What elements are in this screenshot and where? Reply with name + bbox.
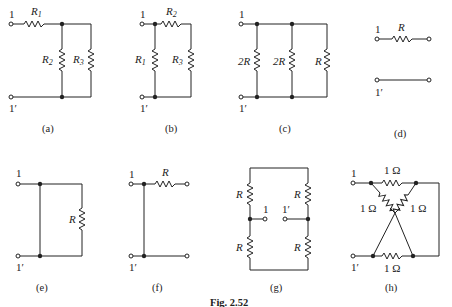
panel-a: 1 1′ R1 R2 R3 (a): [9, 5, 94, 135]
terminal-out-top: [185, 182, 189, 186]
label-r3: R3: [72, 53, 84, 67]
svg-text:1: 1: [351, 167, 357, 179]
svg-text:1 Ω: 1 Ω: [410, 202, 426, 214]
terminal-1: [263, 217, 267, 221]
terminal-out-top: [427, 37, 431, 41]
panel-d: 1 1′ R (d): [375, 21, 431, 140]
svg-text:R: R: [235, 188, 243, 200]
svg-text:1 Ω: 1 Ω: [384, 164, 400, 176]
svg-text:R: R: [293, 241, 301, 253]
terminal-1: [351, 181, 355, 185]
svg-text:R: R: [314, 55, 322, 67]
terminal-1: [239, 22, 243, 26]
panel-h: 1 1′ 1 Ω 1 Ω 1 Ω 1 Ω (h): [351, 164, 439, 294]
resistor-r: [155, 181, 175, 187]
terminal-1-prime: [239, 95, 243, 99]
svg-text:1 Ω: 1 Ω: [384, 262, 400, 274]
label-r2: R2: [41, 53, 53, 67]
terminal-1-prime: [16, 254, 20, 258]
svg-text:1: 1: [375, 23, 381, 35]
terminal-1: [140, 22, 144, 26]
terminal-1: [9, 22, 13, 26]
svg-text:(e): (e): [36, 282, 48, 294]
resistor-r2: [59, 49, 65, 71]
svg-text:R: R: [68, 213, 76, 225]
resistor-r: [324, 49, 330, 71]
label-r2: R2: [165, 5, 177, 19]
svg-text:(c): (c): [279, 123, 291, 135]
svg-text:1′: 1′: [140, 102, 148, 114]
terminal-1-prime: [283, 217, 287, 221]
resistor-bottom-1ohm: [382, 253, 402, 259]
svg-text:(g): (g): [270, 282, 283, 294]
svg-text:1: 1: [9, 8, 15, 20]
svg-text:1 Ω: 1 Ω: [360, 202, 376, 214]
resistor-r1: [24, 21, 44, 27]
svg-text:1′: 1′: [351, 261, 359, 273]
resistor-diag-right-1ohm: [392, 193, 410, 214]
resistor-2r-middle: [289, 49, 295, 71]
resistor-top-1ohm: [382, 180, 402, 186]
svg-text:1: 1: [263, 203, 269, 215]
svg-text:2R: 2R: [273, 55, 286, 67]
terminal-1-prime: [129, 254, 133, 258]
svg-text:1: 1: [16, 167, 22, 179]
panel-g: 1 1′ R R R R (g): [235, 168, 311, 294]
svg-text:1: 1: [239, 8, 245, 20]
resistor-r1: [152, 49, 158, 71]
figure-caption: Fig. 2.52: [210, 297, 248, 307]
svg-text:1′: 1′: [375, 86, 383, 98]
svg-text:R: R: [293, 188, 301, 200]
terminal-out-bottom: [427, 78, 431, 82]
svg-text:(h): (h): [385, 282, 398, 294]
resistor-r3: [188, 49, 194, 71]
terminal-1-prime: [9, 95, 13, 99]
svg-text:1′: 1′: [282, 203, 290, 215]
resistor-r3: [88, 49, 94, 71]
label-r1: R1: [134, 53, 146, 67]
svg-text:(f): (f): [152, 282, 163, 294]
label-r3: R3: [171, 53, 183, 67]
terminal-1-prime: [351, 254, 355, 258]
svg-text:2R: 2R: [238, 55, 251, 67]
panel-b: 1 1′ R2 R1 R3 (b): [134, 5, 194, 135]
svg-text:1′: 1′: [9, 102, 17, 114]
terminal-1-prime: [140, 95, 144, 99]
circuit-figure: 1 1′ R1 R2 R3 (a) 1 1′ R2 R1 R3 (b) 1 1′: [0, 0, 452, 307]
resistor-r-bottom-right: [305, 236, 311, 258]
svg-text:R: R: [235, 241, 243, 253]
terminal-out-bottom: [185, 254, 189, 258]
resistor-r-bottom-left: [247, 236, 253, 258]
panel-f: 1 1′ R (f): [129, 166, 189, 294]
resistor-r-top-left: [247, 183, 253, 205]
resistor-r2: [161, 21, 181, 27]
svg-text:R: R: [161, 166, 169, 178]
svg-text:(d): (d): [394, 128, 407, 140]
resistor-2r-left: [254, 49, 260, 71]
terminal-1: [129, 182, 133, 186]
panel-c: 1 1′ 2R 2R R (c): [238, 8, 330, 135]
resistor-r: [79, 208, 85, 230]
svg-text:1′: 1′: [129, 261, 137, 273]
resistor-r: [392, 36, 412, 42]
label-r1: R1: [30, 5, 42, 19]
resistor-r-top-right: [305, 183, 311, 205]
svg-text:1: 1: [129, 168, 135, 180]
terminal-1-prime: [375, 78, 379, 82]
terminal-1: [16, 182, 20, 186]
svg-text:1′: 1′: [239, 102, 247, 114]
svg-text:(a): (a): [42, 123, 54, 135]
svg-text:1: 1: [140, 8, 146, 20]
svg-text:1′: 1′: [16, 261, 24, 273]
terminal-1: [375, 37, 379, 41]
panel-e: 1 1′ R (e): [16, 167, 85, 294]
svg-text:R: R: [397, 21, 405, 33]
svg-text:(b): (b): [165, 123, 178, 135]
